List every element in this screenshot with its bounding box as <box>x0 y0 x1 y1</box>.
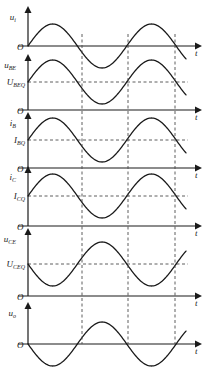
quiescent-label-subscript: CQ <box>17 196 26 202</box>
origin-label-i-b: O <box>17 164 24 174</box>
origin-label-u-be: O <box>17 106 24 116</box>
figure-background <box>0 0 214 389</box>
quiescent-label-subscript: CEQ <box>13 264 26 270</box>
y-axis-label-subscript: B <box>12 123 16 129</box>
origin-label-u-i: O <box>17 42 24 52</box>
y-axis-label-subscript: CE <box>8 239 16 245</box>
y-axis-label-subscript: o <box>13 313 16 319</box>
y-axis-label-subscript: BE <box>9 65 17 71</box>
quiescent-label-subscript: BEQ <box>13 82 25 88</box>
waveform-figure: uiOtuBEUBEQOtiBIBQOtiCICQOtuCEUCEQOtuoOt <box>0 0 214 389</box>
origin-label-u-o: O <box>17 340 24 350</box>
origin-label-i-c: O <box>17 222 24 232</box>
origin-label-u-ce: O <box>17 292 24 302</box>
quiescent-label-subscript: BQ <box>17 140 26 146</box>
